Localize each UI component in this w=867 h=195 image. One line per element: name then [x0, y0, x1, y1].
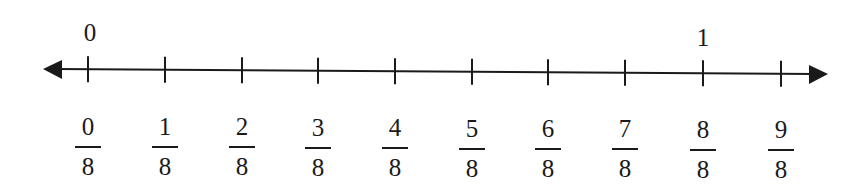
fraction-label: 58: [452, 116, 492, 181]
fraction-bar: [768, 149, 794, 151]
fraction-bar: [382, 147, 408, 149]
denominator: 8: [528, 156, 568, 181]
numerator: 0: [68, 114, 108, 142]
whole-label-1: 1: [688, 25, 718, 50]
denominator: 8: [222, 154, 262, 179]
fraction-bar: [229, 146, 255, 148]
number-line: [0, 0, 867, 195]
fraction-bar: [152, 146, 178, 148]
number-line-axis: [56, 69, 815, 74]
fraction-label: 18: [145, 114, 185, 179]
fraction-label: 88: [683, 117, 723, 182]
fraction-bar: [75, 146, 101, 148]
fraction-bar: [535, 148, 561, 150]
fraction-bar: [690, 149, 716, 151]
denominator: 8: [145, 154, 185, 179]
fraction-bar: [612, 148, 638, 150]
fraction-label: 68: [528, 116, 568, 181]
numerator: 8: [683, 117, 723, 145]
fraction-label: 28: [222, 114, 262, 179]
denominator: 8: [375, 155, 415, 180]
denominator: 8: [452, 156, 492, 181]
fraction-bar: [305, 147, 331, 149]
numerator: 4: [375, 115, 415, 143]
denominator: 8: [761, 157, 801, 182]
numerator: 2: [222, 114, 262, 142]
denominator: 8: [68, 154, 108, 179]
fraction-label: 98: [761, 117, 801, 182]
right-arrow-icon: [809, 65, 828, 84]
numerator: 7: [605, 116, 645, 144]
numerator: 9: [761, 117, 801, 145]
numerator: 6: [528, 116, 568, 144]
fraction-label: 78: [605, 116, 645, 181]
denominator: 8: [298, 155, 338, 180]
denominator: 8: [605, 156, 645, 181]
whole-label-0: 0: [75, 20, 105, 45]
fraction-label: 48: [375, 115, 415, 180]
left-arrow-icon: [43, 60, 62, 79]
fraction-label: 08: [68, 114, 108, 179]
denominator: 8: [683, 157, 723, 182]
numerator: 1: [145, 114, 185, 142]
numerator: 5: [452, 116, 492, 144]
fraction-bar: [459, 148, 485, 150]
numerator: 3: [298, 115, 338, 143]
fraction-label: 38: [298, 115, 338, 180]
